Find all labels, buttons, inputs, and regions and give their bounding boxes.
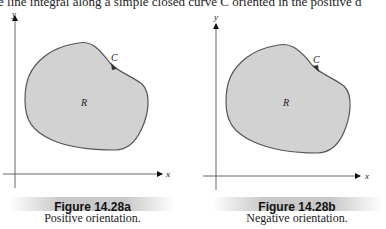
- orientation-arrow-icon: [111, 63, 117, 70]
- x-axis-label: x: [364, 171, 369, 181]
- figure-b: y x C R: [203, 12, 369, 190]
- figure-b-caption-bar: Figure 14.28b: [212, 197, 382, 211]
- figure-b-caption-subtitle: Negative orientation.: [212, 211, 382, 226]
- y-axis-label: y: [213, 12, 218, 22]
- region-label: R: [80, 97, 87, 108]
- figure-a-caption-subtitle: Positive orientation.: [10, 211, 175, 226]
- x-axis-label: x: [165, 169, 170, 179]
- figure-a: y x C R: [3, 9, 170, 188]
- curve-label: C: [313, 54, 320, 65]
- y-axis-label: y: [11, 9, 16, 19]
- region-label: R: [282, 97, 289, 108]
- curve-label: C: [111, 52, 118, 63]
- figure-a-caption-bar: Figure 14.28a: [10, 197, 175, 211]
